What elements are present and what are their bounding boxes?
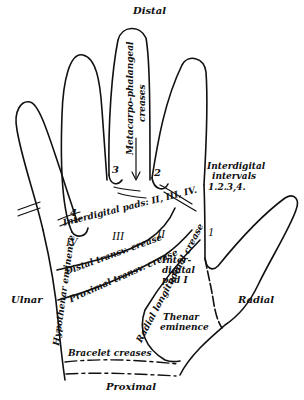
finger-number-2: 2 <box>154 168 161 178</box>
label-pad-iii: III <box>112 230 124 242</box>
finger-number-3: 3 <box>112 165 119 175</box>
label-thenar-2: eminence <box>160 323 209 332</box>
label-interval-1: 1 <box>208 226 214 238</box>
label-thenar-1: Thenar <box>163 313 199 322</box>
label-interdigital-intervals-2: intervals <box>212 172 256 181</box>
label-distal: Distal <box>133 6 166 16</box>
label-interdigital-pad-i-2: digital <box>162 266 195 275</box>
bracelet-crease-2 <box>66 373 176 376</box>
label-interdigital-pad-i-1: Inter- <box>162 256 191 265</box>
thumb-outline <box>180 185 297 375</box>
index-finger-outline <box>152 58 207 185</box>
label-interdigital-intervals-3: 1.2.3,4. <box>208 183 246 192</box>
label-interdigital-pad-i-3: pad I <box>162 276 188 285</box>
label-proximal: Proximal <box>106 382 156 392</box>
ring-finger-outline <box>61 55 107 232</box>
label-radial: Radial <box>238 295 274 305</box>
label-bracelet-creases: Bracelet creases <box>68 349 151 358</box>
label-interdigital-intervals-1: Interdigital <box>207 162 265 171</box>
bracelet-crease-1 <box>65 360 178 364</box>
hand-diagram: Distal Ulnar Radial Proximal 2 3 4 Metac… <box>0 0 304 400</box>
label-ulnar: Ulnar <box>11 295 43 305</box>
label-mp-creases: creases <box>138 84 147 122</box>
little-finger-outline <box>16 102 77 230</box>
label-metacarpo-phalangeal: Metacarpo-phalangeal <box>126 42 135 156</box>
